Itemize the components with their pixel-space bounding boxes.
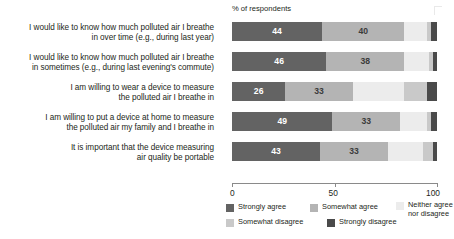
x-axis-tick-label: 0 (230, 188, 235, 198)
legend-swatch (396, 202, 404, 210)
legend-swatch (310, 204, 318, 212)
bar-row: 4933 (232, 112, 437, 131)
category-label-line: I would like to know how much polluted a… (0, 53, 214, 63)
segment-value-label: 44 (232, 22, 322, 41)
legend-label-line: nor disagree (408, 210, 454, 219)
bar-segment: 46 (232, 52, 326, 71)
bar-row: 4440 (232, 22, 437, 41)
bar-segment: 26 (232, 82, 285, 101)
bar-row: 2633 (232, 82, 437, 101)
category-label: I would like to know how much polluted a… (0, 53, 214, 74)
bar-segment (433, 52, 437, 71)
category-label-line: in sometimes (e.g., during last evening'… (0, 63, 214, 73)
bar-segment: 33 (332, 112, 400, 131)
bar-segment (353, 82, 404, 101)
segment-value-label: 26 (232, 82, 285, 101)
bar-segment: 49 (232, 112, 332, 131)
axis-title: % of respondents (232, 4, 291, 13)
category-label: I am willing to wear a device to measure… (0, 83, 214, 104)
chart-legend: Strongly agreeSomewhat agreeNeither agre… (224, 201, 452, 235)
bar-segment (400, 112, 427, 131)
bar-segment (431, 112, 437, 131)
category-label-line: in over time (e.g., during last year) (0, 33, 214, 43)
corner-artifact (434, 6, 442, 15)
category-label-line: the polluted air my family and I breathe… (0, 123, 214, 133)
segment-value-label: 46 (232, 52, 326, 71)
bar-segment (404, 52, 429, 71)
category-label-column: I would like to know how much polluted a… (0, 18, 222, 176)
bar-segment: 33 (285, 82, 353, 101)
bar-segment: 40 (322, 22, 404, 41)
segment-value-label: 33 (320, 142, 388, 161)
legend-item[interactable]: Strongly agree (226, 203, 286, 212)
legend-item[interactable]: Strongly disagree (327, 218, 397, 227)
legend-label: Strongly disagree (339, 218, 397, 227)
legend-item[interactable]: Neither agreenor disagree (396, 201, 454, 218)
plot-area: 44404638263349334333 (232, 18, 437, 176)
bar-segment (433, 142, 437, 161)
category-label: It is important that the device measurin… (0, 143, 214, 164)
legend-item[interactable]: Somewhat agree (310, 203, 378, 212)
segment-value-label: 49 (232, 112, 332, 131)
legend-swatch (327, 219, 335, 227)
legend-label: Neither agreenor disagree (408, 201, 454, 218)
bar-row: 4638 (232, 52, 437, 71)
x-axis-tick-label: 100 (426, 188, 440, 198)
segment-value-label: 33 (332, 112, 400, 131)
legend-label: Strongly agree (238, 203, 286, 212)
bar-segment (404, 22, 427, 41)
category-label-line: air quality be portable (0, 153, 214, 163)
segment-value-label: 33 (285, 82, 353, 101)
bar-segment (431, 22, 437, 41)
bar-segment (388, 142, 423, 161)
legend-item[interactable]: Somewhat disagree (226, 218, 303, 227)
x-axis-tick (335, 183, 336, 187)
legend-swatch (226, 204, 234, 212)
legend-label: Somewhat agree (322, 203, 378, 212)
x-axis-tick-label: 50 (329, 188, 338, 198)
bar-segment (404, 82, 427, 101)
segment-value-label: 40 (322, 22, 404, 41)
category-label-line: I am willing to put a device at home to … (0, 113, 214, 123)
bar-segment: 38 (326, 52, 404, 71)
bar-segment: 44 (232, 22, 322, 41)
category-label-line: I am willing to wear a device to measure (0, 83, 214, 93)
category-label-line: It is important that the device measurin… (0, 143, 214, 153)
bar-segment (423, 142, 433, 161)
x-axis-tick (232, 183, 233, 187)
segment-value-label: 38 (326, 52, 404, 71)
category-label-line: I would like to know how much polluted a… (0, 23, 214, 33)
category-label: I would like to know how much polluted a… (0, 23, 214, 44)
legend-swatch (226, 219, 234, 227)
legend-label: Somewhat disagree (238, 218, 303, 227)
category-label: I am willing to put a device at home to … (0, 113, 214, 134)
bar-segment (427, 82, 437, 101)
stacked-bar-chart: % of respondents I would like to know ho… (0, 0, 454, 239)
category-label-line: the polluted air I breathe in (0, 93, 214, 103)
x-axis-tick (437, 183, 438, 187)
bar-segment: 43 (232, 142, 320, 161)
bar-row: 4333 (232, 142, 437, 161)
segment-value-label: 43 (232, 142, 320, 161)
bar-segment: 33 (320, 142, 388, 161)
